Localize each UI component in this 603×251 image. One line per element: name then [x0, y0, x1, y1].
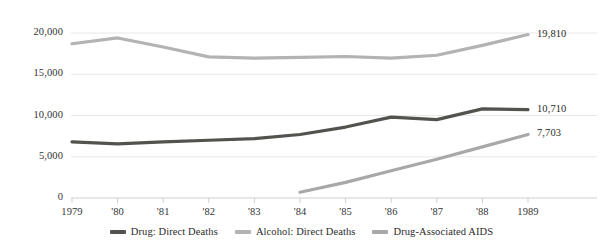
series-end-label: 7,703	[537, 127, 561, 138]
legend-item-label: Drug: Direct Deaths	[131, 226, 218, 237]
x-axis-tick-label: '86	[369, 206, 413, 217]
series-line	[72, 35, 528, 59]
x-axis-tick-label: '81	[141, 206, 185, 217]
line-chart: 05,00010,00015,00020,000 1979'80'81'82'8…	[0, 0, 603, 251]
series-end-label: 10,710	[537, 103, 566, 114]
y-axis-tick-label: 15,000	[0, 67, 63, 78]
legend-item[interactable]: Drug: Direct Deaths	[110, 226, 218, 237]
y-axis-tick-label: 10,000	[0, 109, 63, 120]
chart-legend: Drug: Direct DeathsAlcohol: Direct Death…	[0, 226, 603, 237]
x-axis-tick-label: '83	[232, 206, 276, 217]
x-axis-tick-label: '87	[415, 206, 459, 217]
x-axis-tick-label: '88	[460, 206, 504, 217]
legend-line-icon	[235, 230, 251, 234]
y-axis-tick-label: 0	[0, 191, 63, 202]
x-axis-tick-label: '85	[324, 206, 368, 217]
series-end-label: 19,810	[537, 28, 566, 39]
legend-item-label: Drug-Associated AIDS	[393, 226, 493, 237]
legend-item[interactable]: Alcohol: Direct Deaths	[235, 226, 356, 237]
legend-line-icon	[110, 230, 126, 234]
series-lines-group	[72, 35, 528, 193]
series-line	[300, 134, 528, 192]
legend-item[interactable]: Drug-Associated AIDS	[372, 226, 493, 237]
x-axis-tick-label: 1979	[50, 206, 94, 217]
x-axis-tick-label: '82	[187, 206, 231, 217]
x-axis-tick-label: '80	[96, 206, 140, 217]
y-axis-tick-label: 20,000	[0, 26, 63, 37]
series-line	[72, 109, 528, 144]
x-axis-tick-label: '84	[278, 206, 322, 217]
x-axis-tick-label: 1989	[506, 206, 550, 217]
legend-line-icon	[372, 230, 388, 234]
y-axis-tick-label: 5,000	[0, 150, 63, 161]
x-axis-ticks-group	[72, 198, 528, 203]
legend-item-label: Alcohol: Direct Deaths	[256, 226, 356, 237]
